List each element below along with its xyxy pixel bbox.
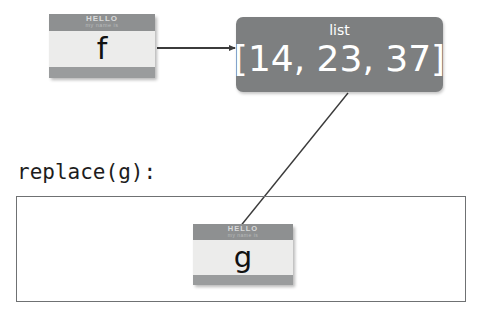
nametag-body: f: [49, 31, 155, 67]
list-type-label: list: [329, 23, 350, 37]
nametag-subtitle-text: my name is: [49, 23, 155, 29]
nametag-variable-name: g: [234, 243, 252, 272]
nametag-footer: [49, 67, 155, 78]
nametag-body: g: [193, 240, 293, 275]
nametag-footer: [193, 275, 293, 285]
nametag-header: HELLO my name is: [49, 14, 155, 31]
scope-label: replace(g):: [17, 160, 156, 184]
nametag-f[interactable]: HELLO my name is f: [49, 14, 155, 77]
nametag-variable-name: f: [97, 34, 108, 64]
diagram-canvas: HELLO my name is f list [14, 23, 37] rep…: [0, 0, 483, 322]
nametag-g[interactable]: HELLO my name is g: [193, 224, 293, 284]
nametag-subtitle-text: my name is: [193, 233, 293, 238]
list-object-box[interactable]: list [14, 23, 37]: [236, 17, 443, 92]
list-value-text: [14, 23, 37]: [234, 41, 445, 77]
nametag-header: HELLO my name is: [193, 224, 293, 240]
